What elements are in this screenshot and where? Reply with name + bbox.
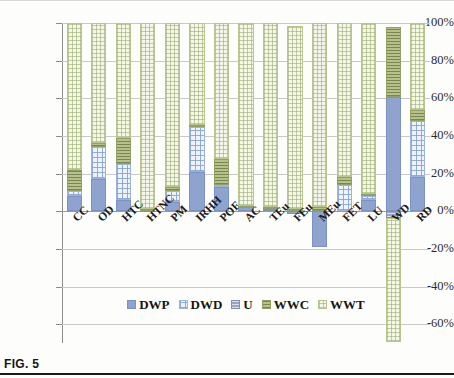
legend-item-wwc[interactable]: WWC bbox=[262, 298, 309, 311]
bar-column[interactable] bbox=[116, 23, 131, 343]
bar-column[interactable] bbox=[312, 23, 327, 343]
bar-column[interactable] bbox=[91, 23, 106, 343]
bar-column[interactable] bbox=[287, 23, 302, 343]
bar-segment-wwc[interactable] bbox=[386, 27, 401, 98]
legend-label: DWD bbox=[191, 298, 223, 311]
bar-segment-dwd[interactable] bbox=[67, 191, 82, 197]
bar-column[interactable] bbox=[410, 23, 425, 343]
legend-item-u[interactable]: U bbox=[231, 298, 252, 311]
bar-column[interactable] bbox=[189, 23, 204, 343]
bar-segment-wwc[interactable] bbox=[361, 194, 376, 196]
bar-segment-wwt[interactable] bbox=[214, 23, 229, 159]
bar-column[interactable] bbox=[386, 23, 401, 343]
bar-column[interactable] bbox=[67, 23, 82, 343]
bar-segment-wwt[interactable] bbox=[410, 23, 425, 110]
legend-item-wwt[interactable]: WWT bbox=[318, 298, 365, 311]
legend-item-dwp[interactable]: DWP bbox=[127, 298, 169, 311]
bar-segment-wwc[interactable] bbox=[165, 187, 180, 191]
bar-segment-dwd[interactable] bbox=[189, 127, 204, 172]
bar-column[interactable] bbox=[263, 23, 278, 343]
bar-segment-dwp[interactable] bbox=[386, 97, 401, 211]
bar-segment-dwd[interactable] bbox=[116, 164, 131, 200]
bar-column[interactable] bbox=[140, 23, 155, 343]
bar-segment-wwt[interactable] bbox=[263, 23, 278, 207]
legend-item-dwd[interactable]: DWD bbox=[179, 298, 223, 311]
bar-segment-wwc[interactable] bbox=[91, 143, 106, 147]
top-divider bbox=[0, 0, 454, 1]
bar-segment-wwt[interactable] bbox=[337, 23, 352, 177]
bar-segment-wwt[interactable] bbox=[287, 26, 302, 210]
bar-segment-wwt[interactable] bbox=[189, 23, 204, 125]
figure-caption: FIG. 5 bbox=[4, 357, 39, 371]
bar-segment-wwc[interactable] bbox=[410, 110, 425, 121]
bar-segment-wwt[interactable] bbox=[67, 23, 82, 170]
plot-area bbox=[62, 23, 430, 343]
legend-swatch-u-icon bbox=[231, 300, 240, 309]
bar-segment-wwt[interactable] bbox=[386, 218, 401, 342]
bar-column[interactable] bbox=[214, 23, 229, 343]
bar-segment-wwt[interactable] bbox=[116, 23, 131, 138]
legend-label: WWC bbox=[274, 298, 309, 311]
legend-swatch-wwc-icon bbox=[262, 300, 271, 309]
legend-swatch-dwp-icon bbox=[127, 300, 136, 309]
bar-segment-wwt[interactable] bbox=[91, 23, 106, 143]
legend-swatch-dwd-icon bbox=[179, 300, 188, 309]
bar-segment-wwc[interactable] bbox=[116, 138, 131, 164]
legend-label: DWP bbox=[139, 298, 169, 311]
bar-segment-wwc[interactable] bbox=[214, 159, 229, 185]
bar-column[interactable] bbox=[361, 23, 376, 343]
bar-segment-wwt[interactable] bbox=[238, 23, 253, 206]
bar-segment-dwd[interactable] bbox=[361, 196, 376, 200]
bar-column[interactable] bbox=[337, 23, 352, 343]
legend-swatch-wwt-icon bbox=[318, 300, 327, 309]
bar-segment-wwt[interactable] bbox=[361, 23, 376, 194]
bar-segment-wwc[interactable] bbox=[189, 125, 204, 127]
legend-label: U bbox=[243, 298, 252, 311]
bar-segment-wwt[interactable] bbox=[140, 23, 155, 209]
bar-segment-wwc[interactable] bbox=[337, 177, 352, 185]
figure-panel: 100%80%60%40%20%0%-20%-40%-60% CCODHTCHT… bbox=[0, 0, 454, 378]
bar-segment-dwd[interactable] bbox=[91, 147, 106, 179]
bar-segment-wwc[interactable] bbox=[67, 170, 82, 191]
caption-divider bbox=[0, 373, 454, 375]
bar-segment-dwd[interactable] bbox=[410, 121, 425, 177]
bar-segment-wwt[interactable] bbox=[312, 23, 327, 207]
chart-legend: DWPDWDUWWCWWT bbox=[62, 298, 430, 311]
bar-segment-dwd[interactable] bbox=[214, 185, 229, 187]
bar-column[interactable] bbox=[165, 23, 180, 343]
legend-label: WWT bbox=[330, 298, 365, 311]
bar-column[interactable] bbox=[238, 23, 253, 343]
bar-segment-wwt[interactable] bbox=[165, 23, 180, 187]
